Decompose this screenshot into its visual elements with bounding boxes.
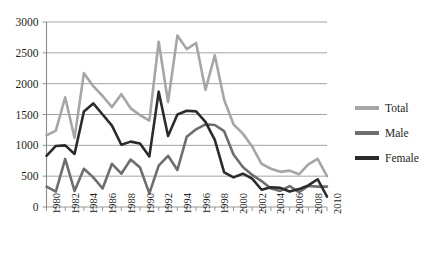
x-axis-tick-label: 2008 [313, 193, 324, 214]
y-axis-tick-label: 3000 [0, 16, 39, 28]
legend-label-male: Male [385, 127, 409, 139]
x-axis-tick-label: 2002 [257, 193, 268, 214]
x-axis-tick-label: 1984 [88, 193, 99, 214]
x-axis-tick-label: 1986 [107, 193, 118, 214]
y-axis-tick-label: 1000 [0, 139, 39, 151]
y-axis-tick-label: 500 [0, 170, 39, 182]
x-axis-tick-label: 1990 [145, 193, 156, 214]
x-axis-tick-label: 1982 [70, 193, 81, 214]
x-axis-tick-label: 1992 [163, 193, 174, 214]
chart-canvas [0, 0, 435, 257]
x-axis-tick-label: 1996 [201, 193, 212, 214]
x-axis-tick-label: 2006 [294, 193, 305, 214]
legend-swatch-male [355, 131, 379, 135]
y-axis-tick-label: 1500 [0, 109, 39, 121]
legend-label-total: Total [385, 102, 408, 114]
x-axis-tick-label: 2000 [238, 193, 249, 214]
x-axis-tick-label: 1998 [219, 193, 230, 214]
y-axis-tick-label: 2500 [0, 47, 39, 59]
x-axis-tick-label: 1994 [182, 193, 193, 214]
line-chart: 0500100015002000250030001980198219841986… [0, 0, 435, 257]
legend-label-female: Female [385, 152, 419, 164]
x-axis-tick-label: 2004 [275, 193, 286, 214]
x-axis-tick-label: 1980 [51, 193, 62, 214]
legend-swatch-female [355, 156, 379, 160]
y-axis-tick-label: 0 [0, 201, 39, 213]
x-axis-tick-label: 2010 [332, 193, 343, 214]
series-line-male [47, 124, 328, 193]
y-axis-tick-label: 2000 [0, 78, 39, 90]
series-line-female [47, 92, 328, 197]
legend-swatch-total [355, 106, 379, 110]
x-axis-tick-label: 1988 [126, 193, 137, 214]
